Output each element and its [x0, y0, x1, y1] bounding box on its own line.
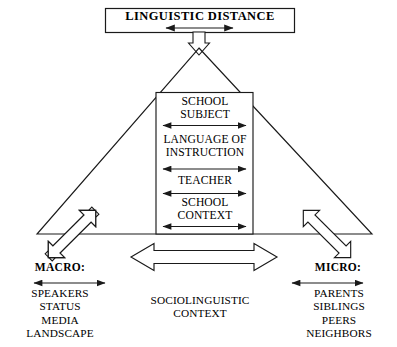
center-label-school-subject: SCHOOL SUBJECT — [156, 96, 254, 121]
linguistic-distance-diagram: LINGUISTIC DISTANCE SCHOOL SUBJECT LANGU… — [0, 0, 397, 347]
center-label-teacher: TEACHER — [156, 175, 254, 188]
center-label-school-context: SCHOOL CONTEXT — [156, 197, 254, 222]
macro-heading: MACRO: — [14, 261, 106, 273]
sociolinguistic-context-label: SOCIOLINGUISTIC CONTEXT — [132, 294, 268, 321]
micro-heading: MICRO: — [292, 261, 384, 273]
page-title: LINGUISTIC DISTANCE — [106, 10, 294, 24]
hollow-horizontal-double-arrow-icon — [131, 244, 277, 271]
macro-items-list: SPEAKERS STATUS MEDIA LANDSCAPE — [9, 287, 111, 340]
hollow-down-arrow-icon — [189, 32, 210, 55]
center-label-language-of-instruction: LANGUAGE OF INSTRUCTION — [156, 134, 254, 159]
micro-items-list: PARENTS SIBLINGS PEERS NEIGHBORS — [288, 287, 390, 340]
